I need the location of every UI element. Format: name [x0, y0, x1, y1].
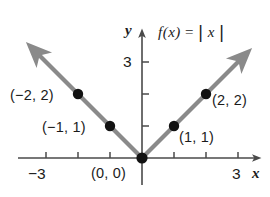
point-label-neg1-1: (−1, 1) [42, 120, 86, 135]
function-label: f(x) = | x | [158, 22, 224, 40]
y-axis-ticks [142, 62, 149, 126]
x-axis-label: x [252, 166, 260, 181]
function-label-equals: = [185, 24, 194, 40]
function-label-bar-left: | [198, 22, 203, 42]
point-1-1 [169, 121, 179, 131]
point-label-neg2-2: (−2, 2) [10, 88, 54, 103]
x-tick-label-3: 3 [232, 166, 241, 182]
absolute-value-graph-figure: f(x) = | x | y x −3 3 3 (−2, 2) (−1, 1) … [0, 0, 270, 197]
point-neg1-1 [105, 121, 115, 131]
point-2-2 [201, 89, 211, 99]
point-label-1-1: (1, 1) [179, 130, 214, 145]
point-0-0 [136, 152, 147, 163]
point-label-0-0: (0, 0) [91, 166, 126, 181]
function-label-prefix: f(x) [158, 24, 181, 40]
point-label-2-2: (2, 2) [212, 93, 247, 108]
x-tick-label-neg3: −3 [28, 166, 46, 182]
point-neg2-2 [73, 89, 83, 99]
y-axis-label: y [125, 23, 132, 38]
function-label-variable: x [208, 24, 215, 40]
function-label-bar-right: | [219, 22, 224, 42]
y-tick-label-3: 3 [123, 54, 132, 70]
